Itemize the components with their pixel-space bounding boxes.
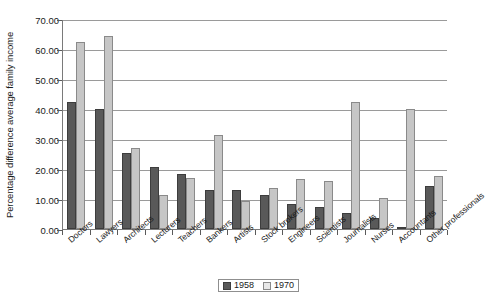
y-axis-title: Percentage difference average family inc… xyxy=(2,10,18,240)
bar-1970 xyxy=(104,36,113,229)
bar-group xyxy=(228,20,256,229)
x-tick-mark xyxy=(200,230,201,235)
x-tick-mark xyxy=(365,230,366,235)
x-tick-mark xyxy=(310,230,311,235)
bar-group xyxy=(421,20,449,229)
legend-item-1970: 1970 xyxy=(263,281,294,290)
bar-group xyxy=(311,20,339,229)
y-tick-label: 20.00 xyxy=(19,166,59,176)
plot-area xyxy=(62,20,447,230)
x-tick-mark xyxy=(145,230,146,235)
bar-1958 xyxy=(95,109,104,229)
bar-1970 xyxy=(214,135,223,229)
x-tick-mark xyxy=(392,230,393,235)
bar-1970 xyxy=(351,102,360,230)
bar-group xyxy=(256,20,284,229)
y-tick-label: 60.00 xyxy=(19,46,59,56)
x-tick-mark xyxy=(282,230,283,235)
y-tick-label: 10.00 xyxy=(19,196,59,206)
bar-group xyxy=(283,20,311,229)
x-tick-mark xyxy=(90,230,91,235)
y-tick-label: 0.00 xyxy=(19,226,59,236)
bar-group xyxy=(338,20,366,229)
bar-group xyxy=(173,20,201,229)
bar-1958 xyxy=(260,195,269,230)
chart-legend: 1958 1970 xyxy=(218,279,299,292)
legend-swatch-1970 xyxy=(263,282,271,290)
bar-1958 xyxy=(67,102,76,230)
bar-group xyxy=(366,20,394,229)
x-tick-mark xyxy=(62,230,63,235)
legend-label-1970: 1970 xyxy=(274,281,294,290)
bar-1970 xyxy=(131,148,140,229)
y-tick-label: 50.00 xyxy=(19,76,59,86)
x-tick-mark xyxy=(255,230,256,235)
bar-group xyxy=(91,20,119,229)
bar-group xyxy=(393,20,421,229)
x-tick-mark xyxy=(447,230,448,235)
bar-group xyxy=(201,20,229,229)
x-tick-mark xyxy=(337,230,338,235)
y-tick-label: 70.00 xyxy=(19,16,59,26)
x-tick-mark xyxy=(420,230,421,235)
bar-group xyxy=(146,20,174,229)
bar-group xyxy=(63,20,91,229)
bars-layer xyxy=(63,20,447,229)
bar-1970 xyxy=(76,42,85,230)
bar-1970 xyxy=(406,109,415,229)
x-tick-mark xyxy=(117,230,118,235)
legend-label-1958: 1958 xyxy=(234,281,254,290)
bar-1958 xyxy=(122,153,131,229)
x-tick-mark xyxy=(172,230,173,235)
legend-swatch-1958 xyxy=(223,282,231,290)
y-tick-label: 30.00 xyxy=(19,136,59,146)
bar-group xyxy=(118,20,146,229)
y-tick-label: 40.00 xyxy=(19,106,59,116)
x-tick-mark xyxy=(227,230,228,235)
legend-item-1958: 1958 xyxy=(223,281,254,290)
